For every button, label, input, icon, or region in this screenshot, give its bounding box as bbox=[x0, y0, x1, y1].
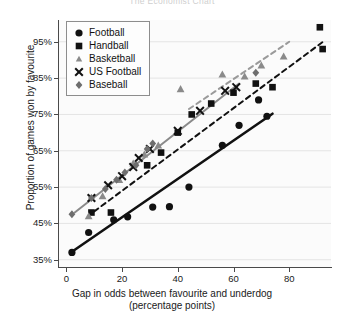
data-point bbox=[177, 85, 185, 92]
legend-label: Handball bbox=[89, 40, 128, 51]
data-point bbox=[76, 55, 82, 61]
data-point bbox=[149, 140, 156, 148]
y-tick bbox=[54, 187, 58, 188]
x-tick-label: 0 bbox=[51, 273, 81, 284]
legend-label: Football bbox=[89, 27, 125, 38]
triangle-icon bbox=[72, 53, 86, 65]
legend-label: Basketball bbox=[89, 53, 135, 64]
legend-item-football[interactable]: Football bbox=[72, 26, 141, 39]
series-us-football bbox=[88, 83, 240, 201]
x-tick bbox=[289, 268, 290, 272]
data-point bbox=[110, 216, 117, 223]
legend-label: US Football bbox=[89, 66, 141, 77]
data-point bbox=[185, 183, 192, 190]
data-point bbox=[257, 62, 265, 69]
data-point bbox=[219, 142, 226, 149]
data-point bbox=[158, 149, 165, 156]
x-axis-label: Gap in odds between favourite and underd… bbox=[0, 288, 344, 312]
y-tick bbox=[54, 114, 58, 115]
data-point bbox=[235, 122, 242, 129]
chart-legend: FootballHandballBasketballUS FootballBas… bbox=[66, 21, 150, 96]
data-point bbox=[76, 42, 83, 49]
data-point bbox=[144, 162, 151, 169]
data-point bbox=[218, 71, 226, 78]
legend-item-basketball[interactable]: Basketball bbox=[72, 52, 141, 65]
data-point bbox=[317, 24, 324, 31]
legend-item-baseball[interactable]: Baseball bbox=[72, 78, 141, 91]
y-tick bbox=[54, 78, 58, 79]
x-tick bbox=[122, 268, 123, 272]
cross-icon bbox=[72, 66, 86, 78]
y-tick bbox=[54, 42, 58, 43]
x-axis-label-line1: Gap in odds between favourite and underd… bbox=[0, 288, 344, 300]
data-point bbox=[154, 141, 162, 148]
diamond-icon bbox=[72, 79, 86, 91]
data-point bbox=[221, 87, 229, 95]
data-point bbox=[75, 68, 83, 76]
data-point bbox=[124, 213, 131, 220]
data-point bbox=[252, 80, 259, 87]
data-point bbox=[269, 84, 276, 91]
legend-item-us-football[interactable]: US Football bbox=[72, 65, 141, 78]
data-point bbox=[241, 72, 249, 79]
chart-figure: The Economist Chart 35%45%55%65%75%85%95… bbox=[0, 0, 344, 328]
data-point bbox=[319, 46, 326, 53]
data-point bbox=[68, 249, 75, 256]
data-point bbox=[69, 210, 76, 218]
data-point bbox=[149, 203, 156, 210]
data-point bbox=[166, 203, 173, 210]
series-football bbox=[68, 96, 270, 256]
data-point bbox=[188, 111, 195, 118]
data-point bbox=[208, 100, 215, 107]
circle-icon bbox=[72, 27, 86, 39]
data-point bbox=[75, 29, 82, 36]
x-tick-label: 20 bbox=[107, 273, 137, 284]
x-tick-label: 60 bbox=[219, 273, 249, 284]
data-point bbox=[196, 107, 204, 115]
data-point bbox=[252, 69, 259, 77]
y-axis-line bbox=[58, 20, 59, 268]
x-tick bbox=[66, 268, 67, 272]
square-icon bbox=[72, 40, 86, 52]
data-point bbox=[263, 113, 270, 120]
data-point bbox=[85, 229, 92, 236]
x-tick-label: 40 bbox=[163, 273, 193, 284]
x-axis-label-line2: (percentage points) bbox=[0, 300, 344, 312]
y-tick-label: 35% bbox=[12, 254, 52, 265]
y-axis-label: Proportion of games won by favourite bbox=[25, 13, 36, 243]
chart-title: The Economist Chart bbox=[0, 0, 344, 6]
x-tick bbox=[178, 268, 179, 272]
legend-item-handball[interactable]: Handball bbox=[72, 39, 141, 52]
x-axis-line bbox=[58, 267, 332, 268]
x-tick-label: 80 bbox=[274, 273, 304, 284]
data-point bbox=[280, 52, 288, 59]
data-point bbox=[99, 192, 107, 199]
x-tick bbox=[234, 268, 235, 272]
y-tick bbox=[54, 260, 58, 261]
data-point bbox=[135, 154, 143, 162]
y-tick bbox=[54, 151, 58, 152]
y-tick bbox=[54, 223, 58, 224]
data-point bbox=[108, 209, 115, 216]
data-point bbox=[255, 96, 262, 103]
data-point bbox=[76, 81, 83, 89]
legend-label: Baseball bbox=[89, 79, 127, 90]
